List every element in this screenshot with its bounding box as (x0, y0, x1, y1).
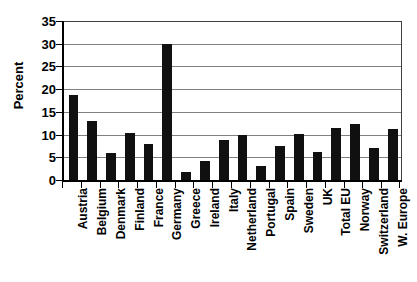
bar (256, 166, 266, 180)
bar (350, 124, 360, 180)
bar (200, 161, 210, 180)
bar-slot (327, 21, 346, 180)
x-label-slot: Belgium (81, 188, 100, 280)
bar (238, 135, 248, 180)
x-label-slot: Greece (175, 188, 194, 280)
y-axis-title: Percent (11, 41, 26, 131)
bar-slot (102, 21, 121, 180)
bar (388, 129, 398, 180)
bar-slot (383, 21, 402, 180)
bar-slot (120, 21, 139, 180)
bars-layer (64, 21, 402, 180)
y-tick-label-5: 5 (26, 151, 56, 164)
x-label-slot: Denmark (100, 188, 119, 280)
y-tick-label-25: 25 (26, 60, 56, 73)
bar (219, 140, 229, 180)
y-tick-label-30: 30 (26, 37, 56, 50)
bar (369, 148, 379, 180)
bar (294, 134, 304, 180)
bar-slot (139, 21, 158, 180)
x-label-slot: Italy (212, 188, 231, 280)
bar-slot (289, 21, 308, 180)
y-axis-tick-labels: 35302520151050 (26, 21, 56, 180)
bar-slot (64, 21, 83, 180)
bar-slot (158, 21, 177, 180)
x-label-slot: Switzerland (363, 188, 382, 280)
x-label-slot: France (137, 188, 156, 280)
x-label-slot: Portugal (250, 188, 269, 280)
x-label-slot: Ireland (193, 188, 212, 280)
x-label-slot: W. Europe (381, 188, 400, 280)
bar-slot (214, 21, 233, 180)
bar-slot (233, 21, 252, 180)
y-tick-label-10: 10 (26, 128, 56, 141)
x-label-slot: Sweden (287, 188, 306, 280)
x-label-slot: Total EU (325, 188, 344, 280)
x-label-slot: Norway (344, 188, 363, 280)
bar (275, 146, 285, 180)
y-tick-label-35: 35 (26, 15, 56, 28)
x-axis-category-labels: AustriaBelgiumDenmarkFinlandFranceGerman… (62, 188, 400, 280)
x-label-slot: Germany (156, 188, 175, 280)
bar (313, 152, 323, 180)
bar (87, 121, 97, 180)
bar (144, 144, 154, 180)
bar (162, 44, 172, 180)
y-tick-label-15: 15 (26, 105, 56, 118)
x-label-slot: Spain (269, 188, 288, 280)
bar-slot (271, 21, 290, 180)
x-label-slot: Austria (62, 188, 81, 280)
bar-slot (252, 21, 271, 180)
bar-slot (365, 21, 384, 180)
bar-chart: Percent 35302520151050 AustriaBelgiumDen… (0, 0, 417, 282)
bar-slot (346, 21, 365, 180)
x-label-slot: Netherland (231, 188, 250, 280)
bar-slot (308, 21, 327, 180)
y-tick-label-20: 20 (26, 83, 56, 96)
bar (125, 133, 135, 180)
bar (181, 172, 191, 180)
x-axis-label: W. Europe (397, 188, 409, 247)
y-tick-label-0: 0 (26, 174, 56, 187)
bar-slot (83, 21, 102, 180)
bar-slot (177, 21, 196, 180)
x-label-slot: Finland (118, 188, 137, 280)
bar (69, 95, 79, 180)
x-label-slot: UK (306, 188, 325, 280)
bar-slot (195, 21, 214, 180)
plot-area (62, 21, 402, 182)
bar (331, 128, 341, 180)
bar (106, 153, 116, 180)
